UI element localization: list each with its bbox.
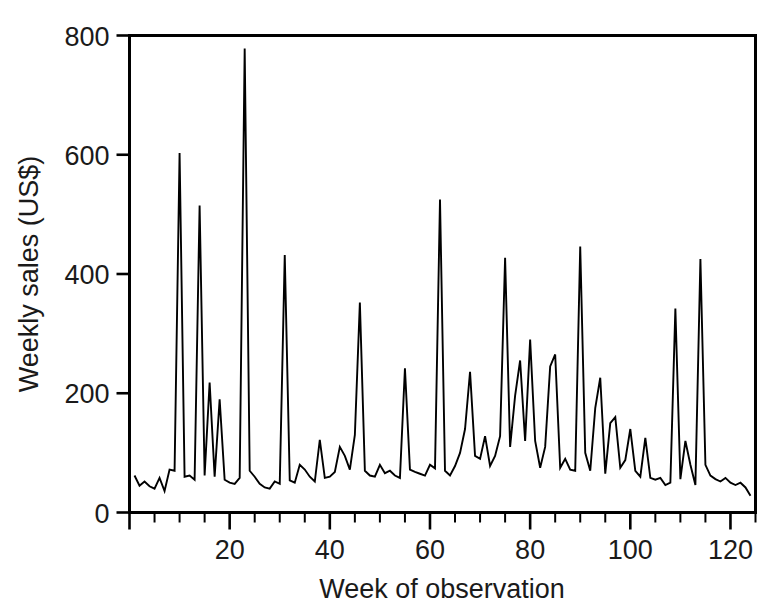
x-tick-label-100: 100 bbox=[608, 535, 653, 565]
x-tick-label-120: 120 bbox=[708, 535, 753, 565]
x-tick-label-80: 80 bbox=[515, 535, 545, 565]
chart-page: 0200400600800 20406080100120 Weekly sale… bbox=[0, 0, 781, 616]
x-tick-label-60: 60 bbox=[415, 535, 445, 565]
y-tick-label-600: 600 bbox=[64, 141, 109, 171]
chart-background bbox=[0, 0, 781, 616]
x-tick-label-20: 20 bbox=[215, 535, 245, 565]
x-axis-title: Week of observation bbox=[319, 574, 565, 604]
y-axis-title: Weekly sales (US$) bbox=[14, 156, 44, 393]
y-tick-label-400: 400 bbox=[64, 260, 109, 290]
y-tick-label-200: 200 bbox=[64, 379, 109, 409]
weekly-sales-line-chart: 0200400600800 20406080100120 Weekly sale… bbox=[0, 0, 781, 616]
x-tick-label-40: 40 bbox=[315, 535, 345, 565]
y-tick-label-0: 0 bbox=[94, 499, 109, 529]
y-tick-label-800: 800 bbox=[64, 22, 109, 52]
